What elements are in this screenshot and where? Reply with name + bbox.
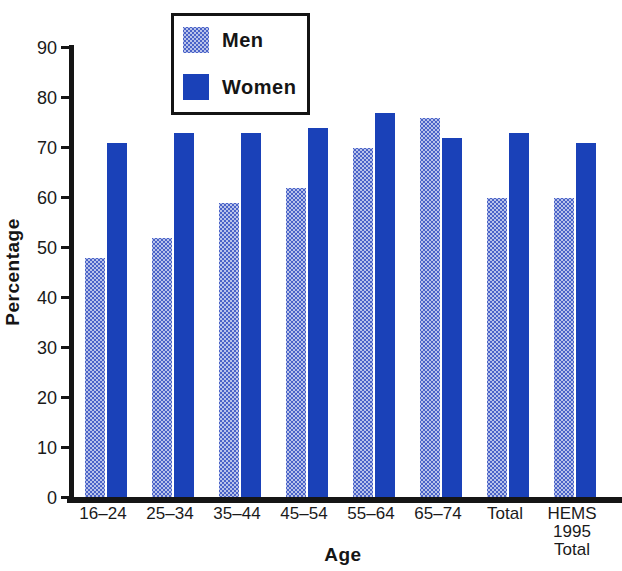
bar-women-55-64 [375,113,395,498]
bar-men-65-74 [420,118,440,498]
y-tick-label-20: 20 [19,388,57,408]
y-tick-10 [61,446,69,449]
x-category-label-16-24: 16–24 [68,505,138,523]
y-tick-50 [61,246,69,249]
bar-women-45-54 [308,128,328,498]
y-tick-40 [61,296,69,299]
x-axis-title: Age [293,544,393,566]
bar-women-total [509,133,529,498]
y-tick-70 [61,146,69,149]
y-tick-20 [61,396,69,399]
y-tick-80 [61,96,69,99]
bar-men-16-24 [85,258,105,498]
x-category-label-total: Total [470,505,540,523]
bar-men-35-44 [219,203,239,498]
bar-men-total [487,198,507,498]
x-category-label-65-74: 65–74 [403,505,473,523]
bar-men-45-54 [286,188,306,498]
y-tick-90 [61,46,69,49]
bar-women-hems-1995-total [576,143,596,498]
bar-women-16-24 [107,143,127,498]
y-tick-label-70: 70 [19,138,57,158]
legend: Men Women [171,13,310,115]
bar-men-55-64 [353,148,373,498]
x-category-label-55-64: 55–64 [336,505,406,523]
y-axis-title: Percentage [2,172,26,372]
bar-men-hems-1995-total [554,198,574,498]
legend-label-men: Men [222,27,264,53]
bar-men-25-34 [152,238,172,498]
y-axis-line [69,45,74,503]
legend-swatch-men-icon [183,27,209,53]
x-category-label-35-44: 35–44 [202,505,272,523]
bar-women-25-34 [174,133,194,498]
legend-label-women: Women [222,74,296,100]
bar-women-65-74 [442,138,462,498]
x-axis-line [67,497,622,503]
y-tick-label-0: 0 [19,488,57,508]
x-category-label-45-54: 45–54 [269,505,339,523]
y-tick-label-90: 90 [19,38,57,58]
y-tick-label-10: 10 [19,438,57,458]
y-tick-30 [61,346,69,349]
bar-chart-figure: 010203040506070809016–2425–3435–4445–545… [0,0,622,571]
y-tick-label-80: 80 [19,88,57,108]
legend-swatch-women-icon [183,74,209,100]
bar-women-35-44 [241,133,261,498]
y-tick-60 [61,196,69,199]
x-category-label-hems-1995-total: HEMS 1995 Total [537,505,607,559]
x-category-label-25-34: 25–34 [135,505,205,523]
